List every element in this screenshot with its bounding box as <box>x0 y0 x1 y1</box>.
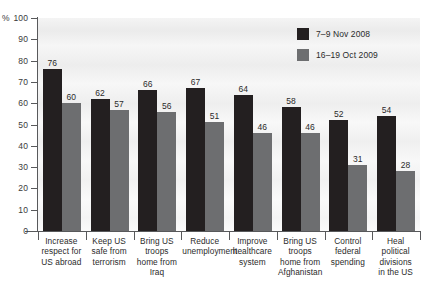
bar-value-label: 60 <box>58 92 85 102</box>
bar <box>348 165 367 231</box>
category-label: Healpoliticaldivisionsin the US <box>373 236 418 278</box>
category-label-line: federal <box>326 246 371 256</box>
category-label: Bring UStroopshome fromAfghanistan <box>278 236 323 278</box>
legend-item-label: 7–9 Nov 2008 <box>316 29 370 39</box>
category-label-line: in the US <box>373 267 418 277</box>
bar-value-label: 76 <box>39 58 66 68</box>
category-label-line: Control <box>326 236 371 246</box>
bar <box>329 120 348 231</box>
y-axis-tick-label: 90 <box>0 34 28 44</box>
category-label: Increaserespect forUS abroad <box>39 236 84 267</box>
bar-value-label: 64 <box>230 84 257 94</box>
y-axis-tick <box>31 167 37 168</box>
category-label-line: Reduce <box>182 236 227 246</box>
category-label-line: Bring US <box>135 236 180 246</box>
bar-value-label: 31 <box>344 154 371 164</box>
bar <box>157 112 176 231</box>
category-label-line: safe from <box>87 246 132 256</box>
category-label-line: unemployment <box>182 246 227 256</box>
legend-item-label: 16–19 Oct 2009 <box>316 50 378 60</box>
category-label: Improvehealthcaresystem <box>230 236 275 267</box>
category-label-line: healthcare <box>230 246 275 256</box>
category-label-line: Improve <box>230 236 275 246</box>
y-axis-tick <box>31 103 37 104</box>
category-label-line: Bring US <box>278 236 323 246</box>
legend-swatch-icon <box>297 49 309 61</box>
bar-chart: % 0102030405060708090100 766062576656675… <box>0 0 427 288</box>
category-label-line: Heal <box>373 236 418 246</box>
y-axis-tick-label: 10 <box>0 205 28 215</box>
bar <box>62 103 81 231</box>
legend-swatch-icon <box>297 28 309 40</box>
category-label-line: divisions <box>373 257 418 267</box>
category-label-line: troops <box>278 246 323 256</box>
category-label-line: respect for <box>39 246 84 256</box>
y-axis-tick <box>31 39 37 40</box>
category-label-line: Afghanistan <box>278 267 323 277</box>
legend-item[interactable]: 7–9 Nov 2008 <box>297 26 378 41</box>
category-label-line: terrorism <box>87 257 132 267</box>
bar-value-label: 28 <box>392 160 419 170</box>
bar <box>186 88 205 231</box>
bar-value-label: 52 <box>325 109 352 119</box>
y-axis-tick <box>31 82 37 83</box>
category-label-line: home from <box>135 257 180 267</box>
y-axis-tick-label: 100 <box>0 13 28 23</box>
x-axis-line <box>25 231 421 232</box>
bar <box>234 95 253 231</box>
category-separator <box>38 231 39 240</box>
category-label-line: system <box>230 257 275 267</box>
bar-value-label: 67 <box>182 77 209 87</box>
category-label-line: troops <box>135 246 180 256</box>
bar <box>138 90 157 231</box>
y-axis-tick-label: 20 <box>0 183 28 193</box>
category-label-line: US abroad <box>39 257 84 267</box>
category-label: Bring UStroopshome fromIraq <box>135 236 180 278</box>
bar-value-label: 54 <box>373 105 400 115</box>
y-axis-tick <box>31 231 37 232</box>
bar-value-label: 66 <box>134 79 161 89</box>
y-axis-tick-label: 70 <box>0 77 28 87</box>
bar-value-label: 46 <box>297 122 324 132</box>
y-axis-tick-label: 50 <box>0 120 28 130</box>
bar <box>301 133 320 231</box>
category-label-line: Iraq <box>135 267 180 277</box>
category-label-line: Keep US <box>87 236 132 246</box>
category-label-line: spending <box>326 257 371 267</box>
category-separator <box>420 231 421 240</box>
y-axis-tick-label: 60 <box>0 98 28 108</box>
category-label-line: Increase <box>39 236 84 246</box>
legend-item[interactable]: 16–19 Oct 2009 <box>297 47 378 62</box>
y-axis-tick-label: 30 <box>0 162 28 172</box>
bar-value-label: 62 <box>87 88 114 98</box>
category-label: Controlfederalspending <box>326 236 371 267</box>
category-label: Keep USsafe fromterrorism <box>87 236 132 267</box>
category-label: Reduceunemployment <box>182 236 227 257</box>
y-axis-tick <box>31 188 37 189</box>
y-axis-tick-label: 80 <box>0 56 28 66</box>
y-axis-tick <box>31 146 37 147</box>
y-axis-line <box>37 17 38 232</box>
y-axis-tick-label: 0 <box>0 226 28 236</box>
bar <box>91 99 110 231</box>
y-axis-tick <box>31 18 37 19</box>
legend: 7–9 Nov 2008 16–19 Oct 2009 <box>297 26 378 68</box>
bar <box>253 133 272 231</box>
bar-value-label: 57 <box>106 99 133 109</box>
bar-value-label: 56 <box>153 101 180 111</box>
bar <box>377 116 396 231</box>
bar-value-label: 46 <box>249 122 276 132</box>
y-axis-tick <box>31 210 37 211</box>
category-label-line: political <box>373 246 418 256</box>
y-axis-tick-label: 40 <box>0 141 28 151</box>
y-axis-tick <box>31 125 37 126</box>
bar-value-label: 58 <box>278 96 305 106</box>
bar-value-label: 51 <box>201 111 228 121</box>
category-label-line: home from <box>278 257 323 267</box>
y-axis-tick <box>31 61 37 62</box>
bar <box>110 110 129 231</box>
bar <box>205 122 224 231</box>
bar <box>396 171 415 231</box>
